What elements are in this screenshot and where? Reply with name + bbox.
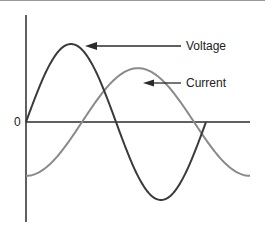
voltage-arrowhead-icon [85, 42, 97, 50]
voltage-annotation: Voltage [85, 39, 226, 53]
current-annotation: Current [143, 76, 227, 90]
voltage-label: Voltage [186, 39, 226, 53]
current-label: Current [186, 76, 227, 90]
current-arrowhead-icon [143, 80, 154, 87]
zero-label: 0 [14, 115, 21, 129]
ac-waveform-diagram: 0 Voltage Current [0, 0, 265, 227]
